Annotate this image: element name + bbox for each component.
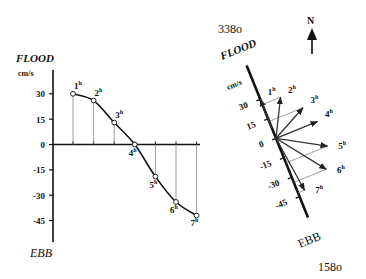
left-data-point: [91, 98, 96, 103]
right-vector-label: 6h: [337, 164, 346, 175]
right-current-vector: [276, 122, 318, 139]
left-y-tick-label: -15: [33, 165, 45, 175]
left-point-label: 4h: [129, 147, 138, 158]
right-axis-tick-label: -45: [274, 197, 289, 211]
right-ebb-label: EBB: [296, 229, 323, 251]
left-y-tick-label: -30: [33, 191, 45, 201]
north-label: N: [307, 15, 315, 26]
left-point-label: 3h: [115, 109, 124, 120]
left-point-label-sup: h: [175, 204, 179, 210]
left-data-point: [112, 120, 117, 125]
right-vector-label-sup: h: [320, 184, 324, 190]
right-vector-label-sup: h: [315, 94, 319, 100]
right-axis-tick-label: -30: [266, 177, 281, 191]
right-axis-tick-label: 15: [245, 119, 258, 132]
left-point-label-sup: h: [99, 87, 103, 93]
right-projection-line: [262, 97, 280, 104]
right-vector-label: 7h: [315, 184, 324, 195]
right-vector-label-sup: h: [343, 140, 347, 146]
right-current-vector: [276, 138, 328, 146]
right-axis-ticks: 30150-15-30-45: [237, 99, 299, 210]
left-point-label-sup: h: [79, 80, 83, 86]
right-vector-label: 1h: [268, 86, 277, 97]
left-y-tick-label: 30: [36, 89, 46, 99]
right-vector-label-sup: h: [330, 108, 334, 114]
left-data-point: [71, 91, 76, 96]
left-data-points: 1h2h3h4h5h6h7h: [71, 80, 200, 229]
left-y-tick-label: 0: [41, 140, 46, 150]
right-axis-tick-label: 30: [237, 99, 250, 112]
right-flood-label: FLOOD: [217, 37, 258, 63]
left-flood-label: FLOOD: [15, 52, 54, 64]
right-current-vector: [276, 108, 303, 139]
right-current-vector: [260, 99, 272, 128]
left-y-tick-label: 15: [36, 115, 46, 125]
right-vector-label-sup: h: [293, 84, 297, 90]
right-vector-label: 3h: [310, 94, 319, 105]
left-point-label: 5h: [149, 179, 158, 190]
ebb-bearing-label: 158o: [318, 260, 342, 274]
tidal-current-figure: FLOOD cm/s 30150-15-30-45 1h2h3h4h5h6h7h…: [0, 0, 366, 279]
left-point-label-sup: h: [195, 217, 199, 223]
right-unit-label: cm/s: [225, 78, 243, 92]
right-current-vector: [276, 97, 281, 138]
left-unit-label: cm/s: [18, 69, 34, 78]
right-projection-line: [298, 190, 304, 193]
flood-bearing-value: 338o: [218, 22, 242, 36]
left-speed-curve: [73, 94, 197, 216]
left-y-tick-label: -45: [33, 216, 45, 226]
right-vector-diagram: 338o FLOOD cm/s 30150-15-30-45 1h2h3h4h5…: [217, 15, 346, 274]
left-time-series-chart: FLOOD cm/s 30150-15-30-45 1h2h3h4h5h6h7h…: [15, 52, 200, 260]
left-point-label: 2h: [95, 87, 104, 98]
right-vector-label: 4h: [325, 108, 334, 119]
right-vector-label: 2h: [288, 84, 297, 95]
right-vector-label-sup: h: [341, 164, 345, 170]
right-vector-label-sup: h: [272, 86, 276, 92]
right-vector-label: 5h: [338, 140, 347, 151]
left-drop-lines: [73, 94, 197, 216]
right-current-vector: [276, 138, 305, 190]
left-ebb-label: EBB: [29, 246, 53, 260]
right-projection-line: [269, 108, 303, 122]
left-point-label: 1h: [74, 80, 83, 91]
right-axis-tick-label: -15: [258, 158, 273, 172]
flood-bearing-label: 338o: [218, 22, 242, 36]
left-point-label: 6h: [170, 204, 179, 215]
left-y-ticks: 30150-15-30-45: [33, 89, 53, 226]
north-arrow-icon: N: [307, 15, 317, 54]
right-axis-tick-label: 0: [257, 138, 265, 149]
left-point-label: 7h: [191, 217, 200, 228]
left-point-label-sup: h: [120, 109, 124, 115]
